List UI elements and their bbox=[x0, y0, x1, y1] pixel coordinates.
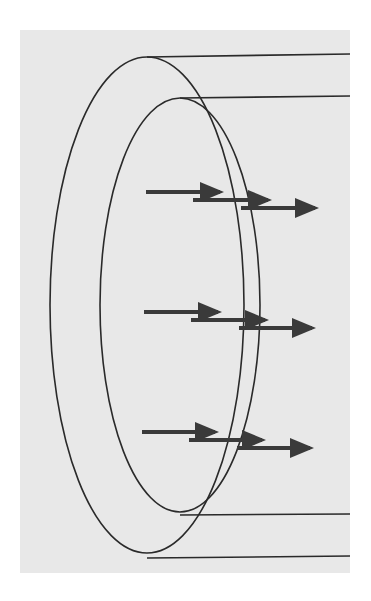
diagram-panel bbox=[20, 30, 350, 573]
inner-bottom-edge-line bbox=[180, 514, 350, 515]
cylinder-flow-diagram bbox=[0, 0, 371, 601]
